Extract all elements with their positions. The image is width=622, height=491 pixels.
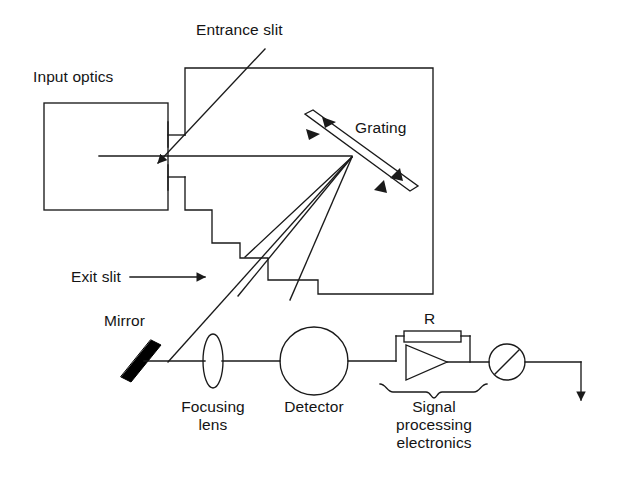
signal-electronics-label-line2: processing <box>386 416 482 434</box>
operational-amplifier <box>406 345 447 380</box>
signal-electronics-brace <box>380 384 487 398</box>
grating-label: Grating <box>355 119 407 137</box>
mirror-label: Mirror <box>104 312 145 330</box>
entrance-slit-leader <box>158 49 265 163</box>
feedback-resistor <box>404 331 461 342</box>
resistor-label: R <box>424 310 435 328</box>
focusing-lens-label-line1: Focusing <box>170 398 256 416</box>
exit-slit-label: Exit slit <box>71 268 121 286</box>
signal-electronics-label-line3: electronics <box>386 434 482 452</box>
diffracted-beam-lower <box>290 157 352 300</box>
signal-electronics-label-line1: Signal <box>386 398 482 416</box>
meter <box>489 344 525 380</box>
detector-label: Detector <box>272 398 356 416</box>
detector <box>280 327 348 395</box>
focusing-lens <box>203 334 223 388</box>
selected-beam-to-mirror <box>168 157 352 362</box>
entrance-slit-label: Entrance slit <box>196 21 283 39</box>
spectrometer-diagram: Input optics Entrance slit Grating Exit … <box>0 0 622 491</box>
input-optics-label: Input optics <box>33 68 113 86</box>
diffracted-beam-middle <box>238 157 352 296</box>
focusing-lens-label-line2: lens <box>170 416 256 434</box>
diffracted-beam-upper <box>245 157 352 257</box>
